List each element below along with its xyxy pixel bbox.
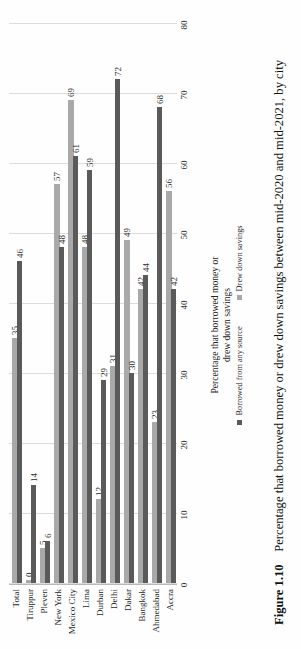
gridline: [9, 23, 177, 24]
chart-category-group: Dakar4930: [121, 25, 135, 584]
tick-label: 60: [179, 160, 189, 169]
legend-item-borrowed: Borrowed from any source: [235, 326, 244, 424]
legend-swatch-icon: [237, 295, 242, 300]
bar-value-drew-down-savings: 57: [52, 172, 62, 181]
bar-borrowed-from-any-source: [17, 261, 23, 583]
chart-category-group: Delhi3172: [107, 25, 121, 584]
bar-borrowed-from-any-source: [73, 156, 79, 583]
figure-caption-container: Figure 1.10 Percentage that borrowed mon…: [256, 0, 301, 649]
value-axis-title-line2: drew down savings: [221, 7, 233, 643]
bar-chart: Accra5642Ahmedabad2368Bangkok4244Dakar49…: [3, 7, 253, 643]
bar-borrowed-from-any-source: [87, 170, 93, 583]
tick-label: 30: [179, 370, 189, 379]
bar-value-drew-down-savings: 56: [164, 179, 174, 188]
value-axis-tick-labels: 01020304050607080: [179, 25, 195, 585]
tick-label: 10: [179, 510, 189, 519]
bar-value-borrowed-from-any-source: 6: [43, 533, 53, 538]
chart-category-group: Ahmedabad2368: [149, 25, 163, 584]
bar-value-borrowed-from-any-source: 68: [155, 95, 165, 104]
bar-borrowed-from-any-source: [59, 247, 65, 583]
bar-value-borrowed-from-any-source: 61: [71, 144, 81, 153]
chart-category-group: Total3546: [9, 25, 23, 584]
bar-borrowed-from-any-source: [143, 275, 149, 583]
value-axis-title-line1: Percentage that borrowed money or: [209, 7, 221, 643]
category-axis-label: Accra: [165, 589, 175, 610]
bar-borrowed-from-any-source: [45, 541, 51, 583]
tick-label: 80: [179, 20, 189, 29]
tick-label: 20: [179, 440, 189, 449]
bar-value-drew-down-savings: 49: [122, 228, 132, 237]
chart-legend: Borrowed from any source Drew down savin…: [235, 7, 244, 643]
bar-borrowed-from-any-source: [101, 380, 107, 583]
category-axis-label: Lima: [81, 589, 91, 608]
tick-label: 70: [179, 90, 189, 99]
bar-borrowed-from-any-source: [129, 373, 135, 583]
category-axis-label: Delhi: [109, 589, 119, 609]
category-axis-label: Tiruppur: [25, 589, 35, 621]
category-axis-label: Bangkok: [137, 589, 147, 622]
chart-category-group: Mexico City6961: [65, 25, 79, 584]
figure-page: Accra5642Ahmedabad2368Bangkok4244Dakar49…: [0, 0, 301, 649]
tick-label: 40: [179, 300, 189, 309]
chart-category-group: Tiruppur014: [23, 25, 37, 584]
legend-label-borrowed: Borrowed from any source: [235, 326, 244, 415]
bar-value-borrowed-from-any-source: 59: [85, 158, 95, 167]
chart-category-group: Pleven56: [37, 25, 51, 584]
chart-category-group: Bangkok4244: [135, 25, 149, 584]
bar-value-borrowed-from-any-source: 29: [99, 368, 109, 377]
legend-label-savings: Drew down savings: [235, 225, 244, 291]
category-axis-label: Durban: [95, 589, 105, 616]
bar-value-borrowed-from-any-source: 46: [15, 249, 25, 258]
value-axis-title: Percentage that borrowed money or drew d…: [209, 7, 232, 643]
figure-caption: Figure 1.10 Percentage that borrowed mon…: [271, 25, 286, 625]
chart-rotation-container: Accra5642Ahmedabad2368Bangkok4244Dakar49…: [0, 0, 256, 649]
figure-caption-text: Percentage that borrowed money or drew d…: [271, 60, 285, 552]
chart-category-group: Durban1229: [93, 25, 107, 584]
category-axis-label: Ahmedabad: [151, 589, 161, 632]
bar-borrowed-from-any-source: [31, 485, 37, 583]
category-axis-label: Mexico City: [67, 589, 77, 634]
plot-area: Accra5642Ahmedabad2368Bangkok4244Dakar49…: [9, 25, 177, 585]
category-axis-label: Dakar: [123, 589, 133, 611]
category-axis-label: Pleven: [39, 589, 49, 614]
category-axis-label: New York: [53, 589, 63, 626]
bar-value-borrowed-from-any-source: 42: [169, 277, 179, 286]
bar-value-borrowed-from-any-source: 30: [127, 361, 137, 370]
legend-item-savings: Drew down savings: [235, 225, 244, 300]
bar-value-borrowed-from-any-source: 48: [57, 235, 67, 244]
bar-value-borrowed-from-any-source: 14: [29, 473, 39, 482]
figure-number: Figure 1.10: [271, 564, 285, 625]
chart-category-group: Lima4859: [79, 25, 93, 584]
bar-value-borrowed-from-any-source: 72: [113, 67, 123, 76]
bar-borrowed-from-any-source: [157, 107, 163, 583]
legend-swatch-icon: [237, 419, 242, 424]
bar-value-drew-down-savings: 69: [66, 88, 76, 97]
bar-value-borrowed-from-any-source: 44: [141, 263, 151, 272]
tick-label: 0: [179, 582, 189, 587]
chart-category-group: New York5748: [51, 25, 65, 584]
category-axis-label: Total: [11, 589, 21, 607]
tick-label: 50: [179, 230, 189, 239]
bar-borrowed-from-any-source: [115, 79, 121, 583]
bar-borrowed-from-any-source: [171, 289, 177, 583]
chart-category-group: Accra5642: [163, 25, 177, 584]
